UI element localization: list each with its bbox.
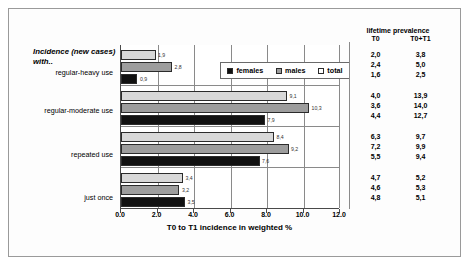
bar-males-regular-moderate-use[interactable] (121, 103, 309, 113)
side-table-row: 2,0 3,8 (353, 50, 443, 60)
side-table-row: 4,6 5,3 (353, 183, 443, 193)
side-table-row: 3,6 14,0 (353, 101, 443, 111)
bar-label-males-regular-heavy-use: 2,8 (175, 62, 182, 72)
side-table-column-headers: T0 T0+T1 (353, 35, 443, 42)
side-table-group-regular-heavy-use: 2,0 3,8 2,4 5,0 1,6 2,5 (353, 50, 443, 80)
side-table-group-repeated-use: 6,3 9,7 7,2 9,9 5,5 9,4 (353, 132, 443, 162)
legend-item-females[interactable]: females (227, 66, 263, 75)
side-table-cell-t0t1: 3,8 (398, 50, 443, 60)
side-table-cell-t0t1: 5,2 (398, 173, 443, 183)
xtick-label-4: 4.0 (188, 211, 198, 218)
bar-label-males-just-once: 3,2 (182, 185, 189, 195)
side-table-row: 4,7 5,2 (353, 173, 443, 183)
side-table-cell-t0t1: 5,3 (398, 183, 443, 193)
side-table-cell-t0t1: 9,7 (398, 132, 443, 142)
side-table-row: 6,3 9,7 (353, 132, 443, 142)
side-table-cell-t0t1: 9,4 (398, 152, 443, 162)
side-table-cell-t0: 1,6 (353, 70, 398, 80)
side-table-cell-t0: 6,3 (353, 132, 398, 142)
side-table-cell-t0: 3,6 (353, 101, 398, 111)
bar-females-regular-heavy-use[interactable] (121, 74, 137, 84)
xtick-label-12: 12.0 (332, 211, 346, 218)
chart-title: Incidence (new cases) with.. (33, 47, 117, 66)
side-table-cell-t0: 4,0 (353, 91, 398, 101)
legend-item-males[interactable]: males (276, 66, 305, 75)
legend-label-total: total (327, 66, 342, 75)
bar-females-regular-moderate-use[interactable] (121, 115, 265, 125)
side-table-cell-t0: 4,8 (353, 193, 398, 203)
bar-label-total-regular-moderate-use: 9,1 (290, 91, 297, 101)
bar-label-total-repeated-use: 8,4 (277, 132, 284, 142)
xtick-label-0: 0.0 (115, 211, 125, 218)
xtick-label-2: 2.0 (152, 211, 162, 218)
side-table-cell-t0t1: 9,9 (398, 142, 443, 152)
side-table-group-just-once: 4,7 5,2 4,6 5,3 4,8 5,1 (353, 173, 443, 203)
bar-total-regular-moderate-use[interactable] (121, 91, 287, 101)
bar-label-males-repeated-use: 9,2 (291, 144, 298, 154)
category-label-repeated-use: repeated use (17, 151, 113, 160)
side-table-row: 7,2 9,9 (353, 142, 443, 152)
bar-label-total-regular-heavy-use: 1,9 (158, 50, 165, 60)
side-table-col-t0t1: T0+T1 (398, 35, 443, 42)
side-table-cell-t0: 4,4 (353, 111, 398, 121)
legend-label-females: females (236, 66, 263, 75)
x-axis-title: T0 to T1 incidence in weighted % (120, 223, 339, 232)
side-table-row: 4,0 13,9 (353, 91, 443, 101)
xtick-label-10: 10.0 (296, 211, 310, 218)
side-table-cell-t0t1: 14,0 (398, 101, 443, 111)
side-table-row: 4,4 12,7 (353, 111, 443, 121)
legend-label-males: males (285, 66, 305, 75)
side-table-cell-t0: 7,2 (353, 142, 398, 152)
xtick-label-8: 8.0 (261, 211, 271, 218)
group-separator-2 (121, 126, 339, 127)
bar-label-females-regular-moderate-use: 7,9 (268, 115, 275, 125)
group-separator-1 (121, 85, 339, 86)
side-table-cell-t0t1: 5,0 (398, 60, 443, 70)
xtick-label-6: 6.0 (225, 211, 235, 218)
side-table-cell-t0: 4,7 (353, 173, 398, 183)
side-table-cell-t0: 4,6 (353, 183, 398, 193)
side-table-cell-t0t1: 5,1 (398, 193, 443, 203)
side-table-divider (349, 42, 350, 209)
bar-label-males-regular-moderate-use: 10,3 (312, 103, 322, 113)
group-separator-3 (121, 167, 339, 168)
bar-label-total-just-once: 3,4 (186, 173, 193, 183)
side-table-row: 5,5 9,4 (353, 152, 443, 162)
bar-males-repeated-use[interactable] (121, 144, 289, 154)
side-table-row: 4,8 5,1 (353, 193, 443, 203)
bar-total-regular-heavy-use[interactable] (121, 50, 156, 60)
bar-males-just-once[interactable] (121, 185, 179, 195)
side-table-row: 2,4 5,0 (353, 60, 443, 70)
bar-total-just-once[interactable] (121, 173, 183, 183)
legend: females males total (220, 62, 350, 79)
side-table-cell-t0: 2,4 (353, 60, 398, 70)
bar-total-repeated-use[interactable] (121, 132, 274, 142)
legend-item-total[interactable]: total (318, 66, 342, 75)
side-table: lifetime prevalence T0 T0+T1 (353, 27, 449, 42)
side-table-cell-t0: 2,0 (353, 50, 398, 60)
bar-label-females-regular-heavy-use: 0,9 (140, 74, 147, 84)
bar-females-repeated-use[interactable] (121, 156, 260, 166)
side-table-col-t0: T0 (353, 35, 398, 42)
chart-frame: Incidence (new cases) with.. regular-hea… (8, 8, 461, 257)
bar-label-females-repeated-use: 7,6 (262, 156, 269, 166)
bar-label-females-just-once: 3,5 (188, 197, 195, 207)
side-table-cell-t0t1: 12,7 (398, 111, 443, 121)
legend-swatch-males-icon (276, 68, 282, 74)
side-table-row: 1,6 2,5 (353, 70, 443, 80)
category-label-regular-heavy-use: regular-heavy use (17, 69, 113, 78)
legend-swatch-total-icon (318, 68, 324, 74)
side-table-cell-t0t1: 2,5 (398, 70, 443, 80)
side-table-header: lifetime prevalence (353, 27, 443, 34)
category-label-just-once: just once (17, 194, 113, 203)
side-table-group-regular-moderate-use: 4,0 13,9 3,6 14,0 4,4 12,7 (353, 91, 443, 121)
side-table-cell-t0: 5,5 (353, 152, 398, 162)
legend-swatch-females-icon (227, 68, 233, 74)
side-table-cell-t0t1: 13,9 (398, 91, 443, 101)
bar-males-regular-heavy-use[interactable] (121, 62, 172, 72)
category-label-regular-moderate-use: regular-moderate use (17, 107, 113, 116)
bar-females-just-once[interactable] (121, 197, 185, 207)
